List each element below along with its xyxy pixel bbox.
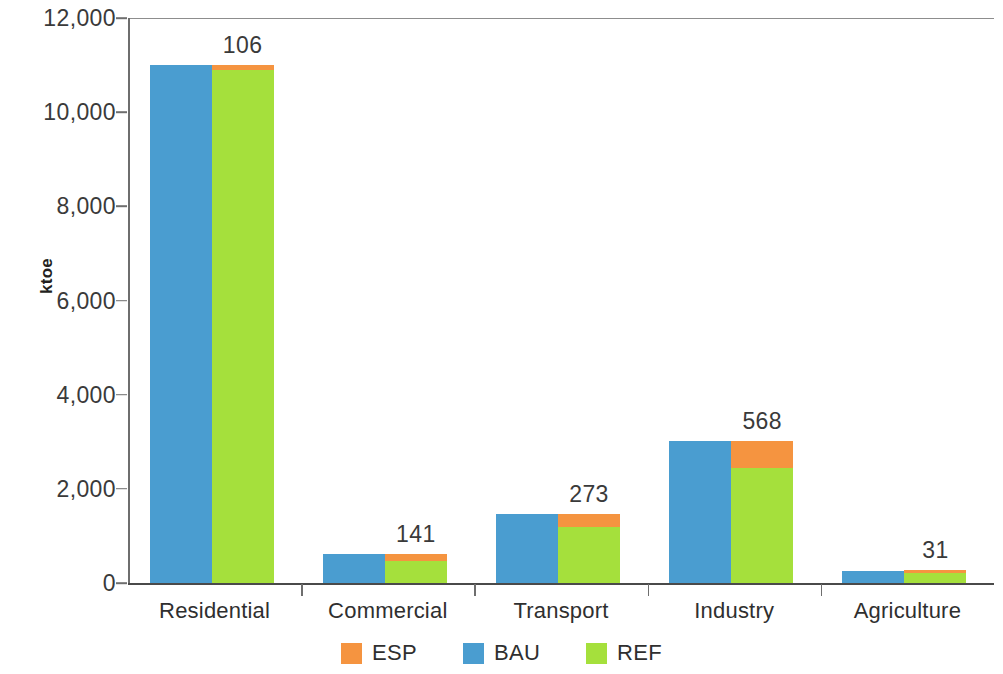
bar-segment-ref: [731, 468, 793, 583]
x-axis-category-label: Transport: [513, 598, 608, 624]
y-axis-tick-mark: [116, 394, 127, 396]
x-axis-divider-tick: [301, 584, 302, 596]
bar-segment-ref: [212, 70, 274, 583]
bar-ref-esp-stack[interactable]: [904, 571, 966, 583]
bar-chart: ktoe 12,00010,0008,0006,0004,0002,0000 1…: [0, 0, 1003, 674]
bar-group: [669, 18, 793, 583]
y-axis-tick-mark: [116, 488, 127, 490]
bar-segment-esp: [904, 570, 966, 573]
legend-label: BAU: [494, 640, 540, 666]
y-axis-tick-label: 2,000: [8, 475, 116, 502]
bar-segment-ref: [904, 573, 966, 583]
legend-swatch-esp: [341, 643, 362, 664]
legend-swatch-bau: [463, 643, 484, 664]
bar-value-label: 568: [742, 408, 782, 435]
x-axis-line: [128, 583, 994, 585]
bar-bau[interactable]: [842, 571, 904, 583]
bar-bau[interactable]: [150, 65, 212, 583]
bar-segment-ref: [385, 561, 447, 583]
bar-segment-bau: [496, 514, 558, 583]
x-axis-category-label: Commercial: [328, 598, 447, 624]
legend-swatch-ref: [586, 643, 607, 664]
x-axis-category-label: Agriculture: [854, 598, 961, 624]
bar-group: [323, 18, 447, 583]
y-axis-tick-mark: [116, 111, 127, 113]
bar-segment-esp: [212, 65, 274, 70]
plot-area: 10614127356831: [128, 18, 994, 583]
legend-item[interactable]: BAU: [463, 640, 540, 666]
x-axis-category-label: Industry: [694, 598, 774, 624]
y-axis-tick-label: 6,000: [8, 287, 116, 314]
bar-segment-esp: [731, 441, 793, 468]
bar-value-label: 141: [396, 521, 436, 548]
x-axis-divider-tick: [474, 584, 475, 596]
bar-bau[interactable]: [669, 441, 731, 583]
bar-group: [150, 18, 274, 583]
legend-item[interactable]: ESP: [341, 640, 417, 666]
legend-label: ESP: [372, 640, 417, 666]
x-axis-category-label: Residential: [159, 598, 270, 624]
bar-bau[interactable]: [496, 514, 558, 583]
bar-ref-esp-stack[interactable]: [731, 441, 793, 583]
bar-segment-esp: [558, 514, 620, 527]
bar-ref-esp-stack[interactable]: [212, 65, 274, 583]
y-axis-tick-mark: [116, 300, 127, 302]
bar-bau[interactable]: [323, 554, 385, 583]
y-axis-tick-mark: [116, 582, 127, 584]
bar-segment-bau: [323, 554, 385, 583]
y-axis-tick-label: 12,000: [8, 5, 116, 32]
y-axis-tick-label: 10,000: [8, 99, 116, 126]
y-axis-tick-label: 8,000: [8, 193, 116, 220]
bar-group: [842, 18, 966, 583]
bar-ref-esp-stack[interactable]: [558, 514, 620, 583]
y-axis-tick-label: 4,000: [8, 381, 116, 408]
bar-segment-bau: [669, 441, 731, 583]
bar-value-label: 273: [569, 481, 609, 508]
x-axis-divider-tick: [821, 584, 822, 596]
bar-value-label: 106: [223, 32, 263, 59]
bar-value-label: 31: [922, 537, 948, 564]
bar-segment-ref: [558, 527, 620, 583]
bar-segment-esp: [385, 554, 447, 561]
legend-item[interactable]: REF: [586, 640, 662, 666]
bar-segment-bau: [842, 571, 904, 583]
y-axis-tick-label: 0: [8, 570, 116, 597]
legend-label: REF: [617, 640, 662, 666]
y-axis-tick-mark: [116, 17, 127, 19]
y-axis-tick-mark: [116, 206, 127, 208]
x-axis-divider-tick: [648, 584, 649, 596]
bar-ref-esp-stack[interactable]: [385, 554, 447, 583]
chart-legend: ESPBAUREF: [0, 640, 1003, 666]
bar-segment-bau: [150, 65, 212, 583]
